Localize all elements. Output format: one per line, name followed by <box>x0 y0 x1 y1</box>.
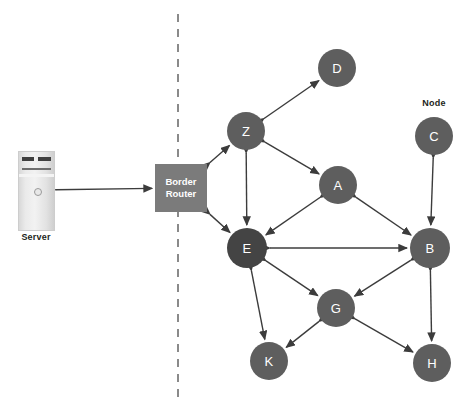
node-z[interactable]: Z <box>227 112 265 150</box>
edge-server-borderrouter <box>56 188 152 189</box>
node-c[interactable]: C <box>415 117 453 155</box>
server-slot <box>22 168 51 170</box>
node-b-label: B <box>426 241 435 256</box>
node-e[interactable]: E <box>227 228 267 268</box>
network-diagram-canvas: Server Border Router Node DZCAEBGKH <box>0 0 470 413</box>
node-d-label: D <box>332 61 342 76</box>
node-d[interactable]: D <box>318 49 356 87</box>
server-icon <box>18 151 55 231</box>
node-annotation-label: Node <box>412 98 456 108</box>
edge-e-k <box>251 271 264 340</box>
edge-c-b <box>431 158 433 225</box>
node-a-label: A <box>334 178 343 193</box>
node-a[interactable]: A <box>319 166 357 204</box>
border-router-label-line1: Border <box>165 176 196 188</box>
node-h[interactable]: H <box>413 344 451 382</box>
border-router-node[interactable]: Border Router <box>155 164 207 212</box>
edge-z-a <box>265 142 319 174</box>
edge-borderrouter-e <box>210 214 230 232</box>
server-top-bar-right <box>38 157 51 161</box>
node-g-label: G <box>331 301 341 316</box>
edge-a-b <box>356 197 411 235</box>
node-c-label: C <box>429 129 439 144</box>
edge-g-k <box>286 322 318 348</box>
node-k[interactable]: K <box>250 342 288 380</box>
server-label: Server <box>12 232 60 242</box>
node-k-label: K <box>265 354 274 369</box>
edge-e-g <box>266 261 318 296</box>
edge-b-g <box>355 260 411 296</box>
node-e-label: E <box>243 241 252 256</box>
edge-layer <box>0 0 470 413</box>
edge-b-h <box>430 271 431 341</box>
edge-g-h <box>355 319 413 352</box>
node-b[interactable]: B <box>410 228 450 268</box>
edge-a-e <box>266 198 320 235</box>
server-divider <box>19 174 54 177</box>
node-g[interactable]: G <box>317 289 355 327</box>
edge-z-e <box>246 153 247 225</box>
border-router-label-line2: Router <box>166 188 197 200</box>
edge-borderrouter-z <box>210 146 229 163</box>
edge-z-d <box>264 81 319 119</box>
server-power-icon <box>34 188 42 196</box>
node-h-label: H <box>427 356 437 371</box>
node-z-label: Z <box>242 124 250 139</box>
server-top-bar-left <box>22 157 34 161</box>
